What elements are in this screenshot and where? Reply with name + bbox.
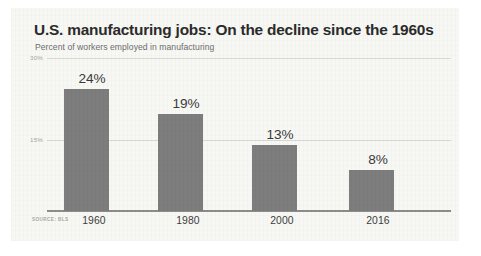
- plot-area: 30% 15% 24% 19% 13% 8%: [11, 8, 459, 241]
- bar-2016: [349, 170, 394, 211]
- source-note: SOURCE: BLS: [32, 217, 69, 222]
- chart-page: U.S. manufacturing jobs: On the decline …: [0, 0, 481, 256]
- bar-value-2016: 8%: [333, 152, 423, 167]
- bar-value-1980: 19%: [141, 96, 231, 111]
- bar-value-2000: 13%: [235, 127, 325, 142]
- bar-group-1980: 19%: [141, 48, 235, 211]
- bar-group-2000: 13%: [235, 48, 329, 211]
- x-axis-tick-2000: 2000: [235, 215, 329, 226]
- bar-1980: [158, 114, 203, 211]
- bar-group-2016: 8%: [329, 48, 423, 211]
- x-axis-tick-1980: 1980: [141, 215, 235, 226]
- chart-card: U.S. manufacturing jobs: On the decline …: [11, 8, 459, 241]
- bar-1960: [64, 89, 109, 211]
- x-axis-tick-2016: 2016: [331, 215, 425, 226]
- bar-group-1960: 24%: [47, 48, 141, 211]
- bar-2000: [252, 145, 297, 211]
- bar-value-1960: 24%: [47, 71, 137, 86]
